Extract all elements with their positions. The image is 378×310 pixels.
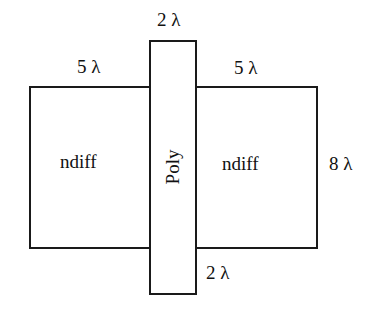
poly-label: Poly — [162, 150, 184, 185]
left-diff-length-dimension: 5 λ — [77, 57, 100, 76]
diff-height-dimension: 8 λ — [329, 154, 352, 173]
poly-width-dimension: 2 λ — [157, 10, 180, 29]
left-ndiff-label: ndiff — [60, 152, 97, 171]
right-ndiff-label: ndiff — [222, 154, 259, 173]
right-diff-length-dimension: 5 λ — [234, 58, 257, 77]
poly-extension-dimension: 2 λ — [206, 263, 229, 282]
